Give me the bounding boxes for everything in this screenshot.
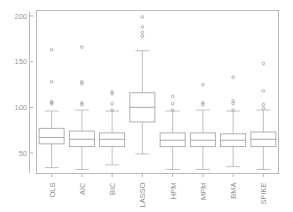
y-tick-label-50: 50 <box>19 149 27 158</box>
outlier-point <box>202 101 205 104</box>
box-group-hpm <box>160 95 185 177</box>
y-tick-label-100: 100 <box>14 103 27 112</box>
outlier-point <box>171 95 174 98</box>
outlier-point <box>111 90 114 93</box>
plot-frame <box>37 11 279 174</box>
outlier-point <box>262 103 265 106</box>
x-axis-label-bma: BMA <box>229 183 238 199</box>
boxplot-figure: 50100150200OLSAICBICLASSOHPMMPMBMASPIKE <box>0 0 293 212</box>
x-axis-label-hpm: HPM <box>169 183 178 200</box>
outlier-point <box>50 80 53 83</box>
outlier-point <box>141 35 144 38</box>
outlier-point <box>141 26 144 29</box>
outlier-point <box>262 107 265 110</box>
box-group-mpm <box>190 83 215 177</box>
x-axis-label-lasso: LASSO <box>138 182 147 207</box>
box-group-ols <box>39 48 64 177</box>
x-axis-label-spike: SPIKE <box>259 183 268 205</box>
box-group-bic <box>100 90 125 177</box>
x-axis-label-mpm: MPM <box>199 183 208 201</box>
plot-area: 50100150200OLSAICBICLASSOHPMMPMBMASPIKE <box>0 0 293 212</box>
box-group-bma <box>221 76 246 177</box>
outlier-point <box>232 102 235 105</box>
box-group-lasso <box>130 16 155 177</box>
x-axis-label-ols: OLS <box>48 183 57 198</box>
outlier-point <box>81 101 84 104</box>
y-tick-label-200: 200 <box>14 12 27 21</box>
outlier-point <box>50 48 53 51</box>
outlier-point <box>171 102 174 105</box>
x-axis-label-bic: BIC <box>108 182 117 195</box>
outlier-point <box>81 80 84 83</box>
box-rect <box>100 133 125 147</box>
box-rect <box>69 131 94 147</box>
x-axis-label-aic: AIC <box>78 182 87 195</box>
box-rect <box>190 133 215 147</box>
outlier-point <box>262 90 265 93</box>
outlier-point <box>262 62 265 65</box>
box-rect <box>160 133 185 147</box>
outlier-point <box>111 102 114 105</box>
outlier-point <box>232 76 235 79</box>
outlier-point <box>232 100 235 103</box>
outlier-point <box>202 83 205 86</box>
outlier-point <box>141 31 144 34</box>
boxplot-svg: 50100150200OLSAICBICLASSOHPMMPMBMASPIKE <box>0 0 293 212</box>
outlier-point <box>141 16 144 19</box>
box-rect <box>39 128 64 144</box>
y-tick-label-150: 150 <box>14 57 27 66</box>
box-group-spike <box>251 62 276 177</box>
box-group-aic <box>69 46 94 177</box>
outlier-point <box>81 46 84 49</box>
